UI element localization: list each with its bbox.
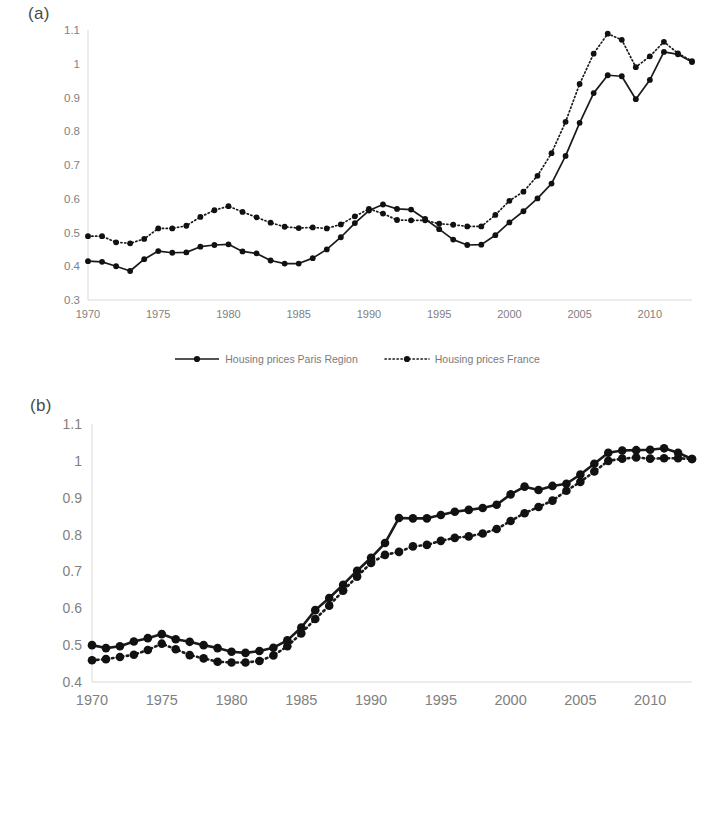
data-point-marker [352,220,358,226]
data-point-marker [408,207,414,213]
legend-item-housing-france[interactable]: Housing prices France [384,353,540,365]
data-point-marker [380,202,386,208]
data-point-marker [155,248,161,254]
x-axis-tick-label: 1995 [427,308,451,320]
data-point-marker [535,173,541,179]
data-point-marker [436,221,442,227]
data-point-marker [563,119,569,125]
data-point-marker [632,446,641,455]
data-point-marker [464,242,470,248]
data-point-marker [590,467,599,476]
x-axis-tick-label: 2005 [567,308,591,320]
data-point-marker [478,504,487,513]
data-point-marker [381,539,390,548]
data-point-marker [127,268,133,274]
data-point-marker [450,534,459,543]
x-axis-tick-label: 2005 [564,692,596,708]
data-point-marker [661,39,667,45]
data-point-marker [605,31,611,37]
data-point-marker [85,233,91,239]
data-point-marker [227,658,236,667]
data-point-marker [241,649,250,658]
data-point-marker [646,454,655,463]
data-point-marker [381,551,390,560]
data-point-marker [212,242,218,248]
data-point-marker [646,446,655,455]
data-point-marker [127,240,133,246]
data-point-marker [199,641,208,650]
data-point-marker [339,580,348,589]
data-point-marker [141,236,147,242]
y-axis-tick-label: 0.7 [64,159,80,171]
data-point-marker [507,219,513,225]
y-axis-tick-label: 0.7 [63,563,83,579]
data-point-marker [478,242,484,248]
data-point-marker [647,53,653,59]
data-point-marker [689,58,695,64]
data-point-marker [213,644,222,653]
data-point-marker [450,237,456,243]
data-point-marker [591,90,597,96]
data-point-marker [282,224,288,230]
data-point-marker [311,615,320,624]
data-point-marker [478,529,487,538]
data-point-marker [506,490,515,499]
data-point-marker [113,263,119,269]
legend-label: Housing prices Paris Region [225,353,357,365]
x-axis-tick-label: 1975 [146,308,170,320]
data-point-marker [268,220,274,226]
data-point-marker [116,642,125,651]
data-point-marker [647,77,653,83]
data-point-marker [422,217,428,223]
data-point-marker [85,258,91,264]
data-point-marker [450,222,456,228]
data-point-marker [563,153,569,159]
x-axis-tick-label: 1980 [216,308,240,320]
data-point-marker [521,208,527,214]
x-axis-tick-label: 1990 [357,308,381,320]
data-point-marker [674,448,683,457]
data-point-marker [241,658,250,667]
panel-b-label: (b) [30,396,52,416]
data-point-marker [227,647,236,656]
data-point-marker [197,214,203,220]
data-point-marker [144,646,153,655]
x-axis-tick-label: 1980 [215,692,247,708]
data-point-marker [269,651,278,660]
data-point-marker [394,206,400,212]
legend-key-solid-icon [174,353,220,365]
data-point-marker [99,259,105,265]
series-line [92,458,692,663]
x-axis-tick-label: 1990 [355,692,387,708]
legend-item-housing-paris[interactable]: Housing prices Paris Region [174,353,357,365]
series-line [92,448,692,653]
data-point-marker [619,37,625,43]
legend-label: Housing prices France [435,353,540,365]
data-point-marker [338,234,344,240]
data-point-marker [534,503,543,512]
x-axis-tick-label: 2010 [634,692,666,708]
plot-area-a: 0.30.40.50.60.70.80.911.1197019751980198… [0,22,714,332]
x-axis-tick-label: 1970 [76,692,108,708]
data-point-marker [144,634,153,643]
data-point-marker [492,232,498,238]
line-chart-a: 0.30.40.50.60.70.80.911.1197019751980198… [0,22,714,332]
data-point-marker [338,222,344,228]
data-point-marker [157,639,166,648]
series-line [88,52,692,271]
y-axis-tick-label: 0.6 [64,193,80,205]
data-point-marker [310,255,316,261]
data-point-marker [325,601,334,610]
data-point-marker [311,606,320,615]
data-point-marker [254,214,260,220]
data-point-marker [102,644,111,653]
y-axis-tick-label: 0.4 [63,674,83,690]
data-point-marker [492,525,501,534]
y-axis-tick-label: 0.9 [64,92,80,104]
data-point-marker [577,81,583,87]
data-point-marker [661,49,667,55]
data-point-marker [240,209,246,215]
legend-key-dotted-icon [384,353,430,365]
data-point-marker [310,225,316,231]
data-point-marker [226,203,232,209]
